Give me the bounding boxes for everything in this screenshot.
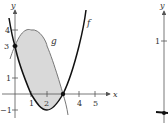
- intersection-point-3-0: [61, 92, 65, 96]
- tick-x-2: 2: [44, 99, 49, 108]
- right-tick-y-1: 1: [155, 37, 160, 46]
- y-axis-label: y: [10, 1, 16, 10]
- tick-y-1: 1: [6, 74, 11, 83]
- right-curve-fragment: [156, 112, 168, 113]
- tick-x-4: 4: [77, 99, 82, 108]
- intersection-point-0-3: [13, 44, 17, 48]
- tick-y-4: 4: [5, 26, 10, 35]
- x-axis-label: x: [113, 90, 118, 99]
- right-chart: 1 y: [155, 1, 168, 123]
- right-point: [162, 111, 166, 115]
- figure: 1 2 4 5 −1 1 3 4 x y g f 1 y: [0, 0, 168, 123]
- tick-x-5: 5: [93, 99, 98, 108]
- right-y-axis-label: y: [159, 1, 165, 10]
- curve-g-label: g: [51, 36, 57, 46]
- curve-f-label: f: [86, 18, 92, 28]
- left-chart: 1 2 4 5 −1 1 3 4 x y g f: [0, 1, 118, 118]
- tick-x-1: 1: [29, 99, 34, 108]
- tick-y-neg1: −1: [0, 106, 12, 115]
- tick-y-3: 3: [4, 42, 9, 51]
